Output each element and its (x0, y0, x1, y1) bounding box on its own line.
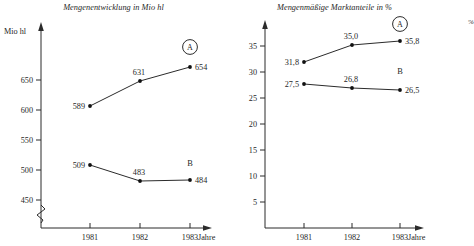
y-ticks-left: 650 600 550 500 450 (21, 76, 41, 205)
y-tick-label: 500 (21, 166, 33, 175)
data-label: 483 (133, 168, 145, 177)
y-tick-label: 550 (21, 136, 33, 145)
data-label: 35,8 (405, 37, 419, 46)
y-tick-label: 650 (21, 76, 33, 85)
x-tick-label: 1983 (392, 233, 408, 242)
x-axis-left (41, 225, 212, 231)
series-a-right: 31,8 35,0 35,8 A (285, 17, 420, 67)
data-label: 654 (195, 63, 207, 72)
data-label: 27,5 (285, 80, 299, 89)
x-tick-label: 1982 (344, 233, 360, 242)
chart-svg-left: 650 600 550 500 450 1981 1982 1983 Jahr (0, 0, 219, 246)
chart-panel-quantity: Mengenentwicklung in Mio hl Mio hl 650 6… (0, 0, 219, 246)
y-tick-label: 35 (249, 42, 257, 51)
y-axis-label-right: % (468, 18, 474, 26)
y-tick-label: 600 (21, 106, 33, 115)
series-a-marker-right: A (393, 17, 408, 32)
y-tick-label: 15 (249, 146, 257, 155)
data-point (188, 178, 192, 182)
series-b-marker-left: B (187, 159, 193, 168)
y-axis-left (37, 22, 45, 228)
series-b-marker-right: B (397, 67, 403, 76)
data-point (350, 86, 354, 90)
y-tick-label: 25 (249, 94, 257, 103)
data-label: 631 (133, 68, 145, 77)
y-tick-label: 30 (249, 68, 257, 77)
series-a-left: 589 631 654 A (73, 40, 208, 111)
y-tick-label: 450 (21, 196, 33, 205)
svg-text:A: A (397, 20, 403, 29)
chart-svg-right: 35 30 25 20 15 10 5 1981 1982 (219, 0, 438, 246)
y-tick-label: 20 (249, 120, 257, 129)
x-ticks-right: 1981 1982 1983 (296, 223, 408, 242)
data-point (88, 163, 92, 167)
series-a-marker-left: A (183, 40, 198, 55)
x-ticks-left: 1981 1982 1983 (82, 223, 198, 242)
data-label: 509 (73, 161, 85, 170)
data-point (398, 88, 402, 92)
data-point (398, 39, 402, 43)
data-point (88, 104, 92, 108)
series-b-right: 27,5 26,8 26,5 B (285, 67, 420, 95)
data-point (302, 60, 306, 64)
data-label: 589 (73, 102, 85, 111)
y-ticks-right: 35 30 25 20 15 10 5 (249, 42, 265, 207)
data-point (138, 79, 142, 83)
data-point (350, 43, 354, 47)
data-point (188, 65, 192, 69)
data-point (302, 82, 306, 86)
x-tick-label: 1982 (132, 233, 148, 242)
svg-text:A: A (187, 43, 193, 52)
data-label: 31,8 (285, 58, 299, 67)
data-label: 35,0 (344, 32, 358, 41)
x-axis-label-right: Jahre (408, 233, 426, 242)
y-tick-label: 5 (253, 198, 257, 207)
x-tick-label: 1983 (182, 233, 198, 242)
data-label: 484 (195, 176, 207, 185)
chart-panel-market-share: Mengenmäßige Marktanteile in % 35 30 25 (219, 0, 438, 246)
series-b-left: 509 483 484 B (73, 159, 208, 185)
x-tick-label: 1981 (296, 233, 312, 242)
data-label: 26,8 (344, 75, 358, 84)
data-point (138, 179, 142, 183)
x-axis-label-left: Jahre (198, 233, 216, 242)
data-label: 26,5 (405, 86, 419, 95)
y-tick-label: 10 (249, 172, 257, 181)
x-tick-label: 1981 (82, 233, 98, 242)
